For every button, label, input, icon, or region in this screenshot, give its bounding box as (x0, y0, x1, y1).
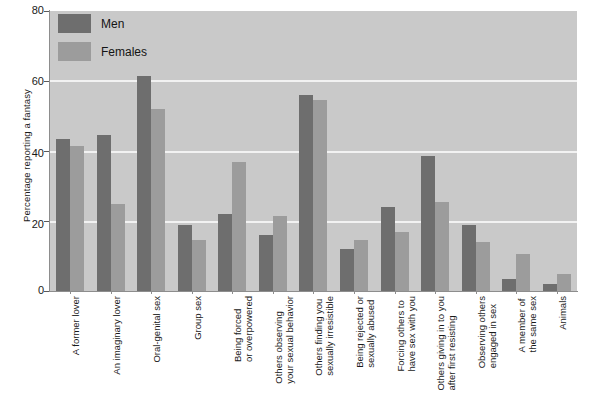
x-axis-label: A former lover (70, 296, 81, 355)
legend-item-men: Men (58, 14, 147, 33)
y-tick-label-40: 40 (18, 147, 44, 159)
x-axis-label: Forcing others tohave sex with you (395, 296, 417, 372)
bar-men (462, 225, 476, 292)
bar-men (299, 95, 313, 291)
x-axis-label-cell: Others giving in to youafter first resis… (415, 294, 456, 406)
x-tick-mark (192, 291, 193, 294)
x-axis-label: Others giving in to youafter first resis… (435, 296, 457, 391)
bar-group (172, 11, 213, 291)
x-tick-mark (70, 291, 71, 294)
bar-men (340, 249, 354, 291)
bar-group (334, 11, 375, 291)
bar-men (259, 235, 273, 291)
x-axis-label-cell: A member ofthe same sex (496, 294, 537, 406)
bar-group (253, 11, 294, 291)
bar-men (502, 279, 516, 291)
x-axis-label-cell: Forcing others tohave sex with you (374, 294, 415, 406)
x-axis-label-cell: Oral-genital sex (131, 294, 172, 406)
bar-females (435, 202, 449, 291)
legend-item-females: Females (58, 42, 147, 61)
bar-men (56, 139, 70, 291)
bar-females (111, 204, 125, 292)
bar-men (218, 214, 232, 291)
x-axis-label: Observing othersengaged in sex (476, 296, 498, 368)
bar-females (354, 240, 368, 291)
bar-females (476, 242, 490, 291)
x-axis-label: Group sex (192, 296, 203, 340)
x-tick-mark (313, 291, 314, 294)
x-tick-mark (232, 291, 233, 294)
y-tick-label-20: 20 (18, 218, 44, 230)
bar-females (557, 274, 571, 292)
x-axis-label: Being rejected orsexually abused (354, 296, 376, 368)
x-axis-label-cell: An imaginary lover (91, 294, 132, 406)
y-tick-label-80: 80 (18, 4, 44, 16)
legend: Men Females (58, 14, 147, 70)
y-tick-label-0: 0 (18, 284, 44, 296)
x-axis-labels: A former loverAn imaginary loverOral-gen… (50, 294, 577, 406)
y-tick-label-60: 60 (18, 75, 44, 87)
x-axis-label-cell: Others finding yousexually irresistible (293, 294, 334, 406)
bar-females (273, 216, 287, 291)
x-axis-label-cell: Observing othersengaged in sex (455, 294, 496, 406)
bar-group (212, 11, 253, 291)
bar-group (374, 11, 415, 291)
bar-men (421, 156, 435, 291)
legend-label-men: Men (101, 17, 124, 31)
x-axis-label: Others finding yousexually irresistible (313, 296, 335, 376)
bar-group (415, 11, 456, 291)
bar-men (543, 284, 557, 291)
x-axis-label: Others observingyour sexual behavior (273, 296, 295, 384)
x-axis-label-cell: Others observingyour sexual behavior (253, 294, 294, 406)
bar-men (381, 207, 395, 291)
bar-females (395, 232, 409, 292)
bar-females (70, 146, 84, 291)
x-tick-mark (151, 291, 152, 294)
x-axis-label: Animals (557, 296, 568, 330)
bar-group (293, 11, 334, 291)
x-tick-mark (354, 291, 355, 294)
x-tick-mark (557, 291, 558, 294)
x-tick-mark (476, 291, 477, 294)
bar-females (151, 109, 165, 291)
bar-chart: Percentage reporting a fantasy 80 60 40 … (0, 0, 589, 406)
bar-group (536, 11, 577, 291)
y-axis-tick-labels: 80 60 40 20 0 (16, 0, 44, 406)
bar-men (97, 135, 111, 291)
bar-females (232, 162, 246, 292)
legend-swatch-men-icon (58, 14, 91, 33)
bar-group (496, 11, 537, 291)
x-tick-mark (516, 291, 517, 294)
x-axis-label: An imaginary lover (111, 296, 122, 375)
x-tick-mark (111, 291, 112, 294)
bar-group (455, 11, 496, 291)
x-axis-label: Oral-genital sex (151, 296, 162, 363)
bar-men (137, 76, 151, 291)
x-axis-label-cell: Being forcedor overpowered (212, 294, 253, 406)
bar-females (313, 100, 327, 291)
bar-females (516, 254, 530, 291)
x-axis-label-cell: Being rejected orsexually abused (334, 294, 375, 406)
x-axis-label-cell: Group sex (172, 294, 213, 406)
x-axis-label: Being forcedor overpowered (232, 296, 254, 362)
legend-swatch-females-icon (58, 42, 91, 61)
x-axis-label-cell: Animals (536, 294, 577, 406)
x-tick-mark (435, 291, 436, 294)
legend-label-females: Females (101, 45, 147, 59)
x-tick-mark (395, 291, 396, 294)
x-tick-mark (273, 291, 274, 294)
bar-men (178, 225, 192, 292)
x-axis-label-cell: A former lover (50, 294, 91, 406)
bar-females (192, 240, 206, 291)
x-axis-label: A member ofthe same sex (516, 296, 538, 353)
